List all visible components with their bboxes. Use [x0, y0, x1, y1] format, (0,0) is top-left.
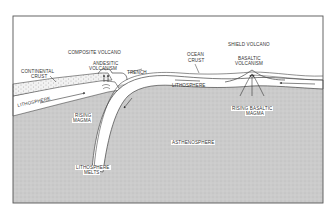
label-continental-crust-2: CRUST [31, 74, 47, 79]
label-shield-volcano: SHIELD VOLCANO [228, 42, 270, 47]
plate-tectonics-diagram: COMPOSITE VOLCANO ANDESITIC VOLCANISM TR… [0, 0, 333, 217]
label-basaltic-volcanism-2: VOLCANISM [235, 61, 263, 66]
diagram-graphic [0, 0, 333, 217]
label-andesitic-volcanism-2: VOLCANISM [89, 66, 117, 71]
label-rising-magma-2: MAGMA [72, 118, 92, 123]
label-trench: TRENCH [127, 70, 147, 75]
label-asthenosphere: ASTHENOSPHERE [171, 140, 215, 145]
label-lithosphere-center: LITHOSPHERE [172, 83, 206, 88]
label-lithosphere-melts-2: MELTS [83, 170, 100, 175]
label-rising-basaltic-magma-2: MAGMA [245, 111, 265, 116]
label-ocean-crust-1: OCEAN [187, 52, 204, 57]
label-ocean-crust-2: CRUST [188, 58, 204, 63]
label-composite-volcano: COMPOSITE VOLCANO [68, 50, 121, 55]
